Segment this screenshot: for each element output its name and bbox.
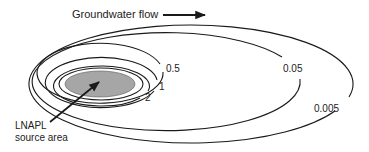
contour-label-0.005: 0.005	[314, 103, 339, 114]
contour-label-2: 2	[145, 92, 151, 103]
contour-label-0.5: 0.5	[166, 63, 180, 74]
source-label-line2: source area	[15, 132, 68, 143]
lnapl-source-area	[65, 71, 135, 97]
plume-contour-diagram: Groundwater flow 0.005 0.05 0.5 1 2 LNAP…	[0, 0, 369, 152]
source-label-line1: LNAPL	[15, 120, 47, 131]
groundwater-flow-label: Groundwater flow	[72, 8, 158, 20]
contour-label-0.05: 0.05	[283, 63, 303, 74]
contour-label-1: 1	[159, 81, 165, 92]
